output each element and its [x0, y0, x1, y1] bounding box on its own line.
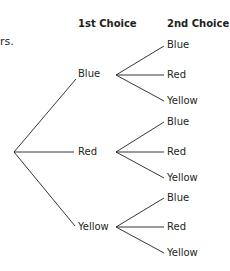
- second-choice-yellow-red: Red: [167, 221, 186, 233]
- branch-line-root-blue: [14, 79, 76, 152]
- branch-line-blue-blue: [116, 46, 164, 75]
- branch-line-red-yellow: [116, 152, 164, 178]
- second-choice-red-red: Red: [167, 146, 186, 158]
- second-choice-yellow-blue: Blue: [167, 192, 189, 204]
- first-choice-red: Red: [78, 146, 97, 158]
- tree-diagram-lines: [0, 0, 230, 271]
- second-choice-blue-blue: Blue: [167, 39, 189, 51]
- branch-line-yellow-yellow: [116, 227, 164, 253]
- branch-line-root-yellow: [14, 152, 75, 226]
- second-choice-red-blue: Blue: [167, 116, 189, 128]
- branch-line-yellow-blue: [116, 198, 164, 227]
- second-choice-blue-red: Red: [167, 69, 186, 81]
- second-choice-blue-yellow: Yellow: [167, 95, 198, 107]
- branch-line-blue-yellow: [116, 75, 164, 101]
- first-choice-blue: Blue: [78, 68, 100, 80]
- second-choice-red-yellow: Yellow: [167, 172, 198, 184]
- branch-line-red-blue: [116, 122, 164, 152]
- first-choice-yellow: Yellow: [78, 221, 109, 233]
- second-choice-yellow-yellow: Yellow: [167, 247, 198, 259]
